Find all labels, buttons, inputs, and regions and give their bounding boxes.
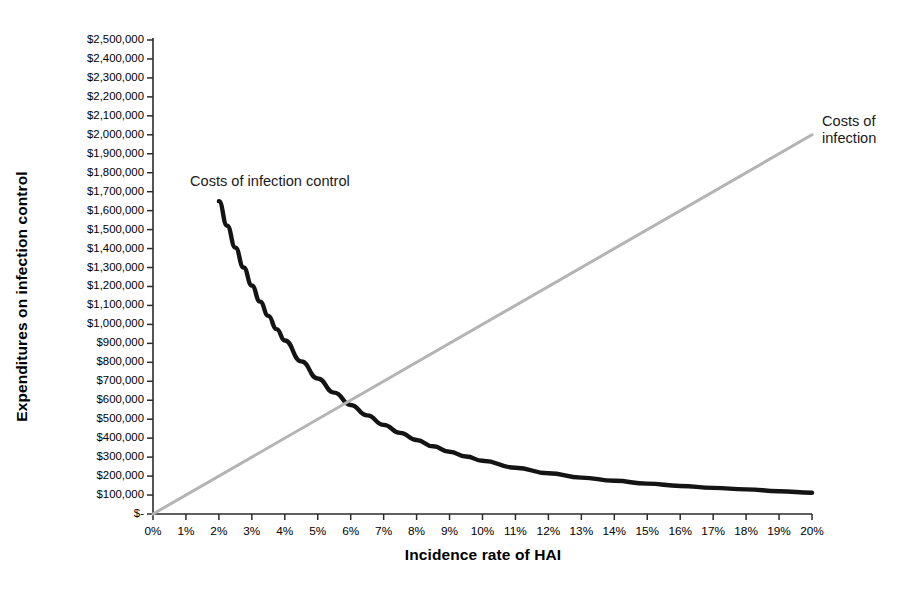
annotation-costs-of-infection-control: Costs of infection control [190, 173, 350, 190]
series-line-costs-of-infection [153, 135, 812, 514]
plot-area [0, 0, 921, 593]
series-line-costs-of-infection-control [219, 201, 812, 493]
data-series [153, 135, 812, 514]
annotation-costs-of-infection-line2: infection [822, 130, 876, 147]
annotation-costs-of-infection: Costs of infection [822, 113, 876, 147]
annotation-costs-of-infection-line1: Costs of [822, 113, 876, 130]
chart-figure: Expenditures on infection control Incide… [0, 0, 921, 593]
